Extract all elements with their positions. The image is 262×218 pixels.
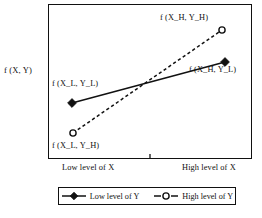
legend-label-high-level-of-y: High level of Y <box>182 192 233 201</box>
legend-item-low-level-of-y: Low level of Y <box>61 191 140 201</box>
legend: Low level of Y High level of Y <box>58 187 236 205</box>
point-label-xl-yl: f (X_L, Y_L) <box>52 80 98 88</box>
point-label-xh-yh: f (X_H, Y_H) <box>160 14 208 22</box>
legend-label-low-level-of-y: Low level of Y <box>90 192 140 201</box>
legend-dashed-circle-icon <box>153 191 179 201</box>
x-tick-label-high: High level of X <box>182 164 236 172</box>
point-label-xl-yh: f (X_L, Y_H) <box>52 142 99 150</box>
legend-solid-diamond-icon <box>61 191 87 201</box>
interaction-plot-figure: f (X, Y) f (X_H, Y_H) f (X_L, Y_L) f (X_… <box>0 0 262 218</box>
x-tick-label-low: Low level of X <box>62 164 114 172</box>
point-label-xh-yl: f (X_H, Y_L) <box>189 66 236 74</box>
legend-item-high-level-of-y: High level of Y <box>153 191 233 201</box>
y-axis-label: f (X, Y) <box>4 66 32 75</box>
